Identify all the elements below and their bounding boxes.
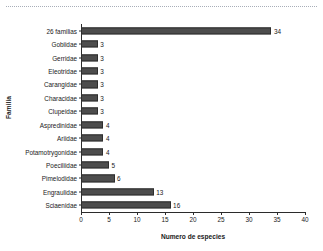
bar-value-label: 13 [156, 188, 163, 195]
species-per-family-bar-chart: Familia 26 familias34Gobiidae3Gerridae3E… [0, 0, 323, 251]
x-axis-title: Numero de especies [81, 233, 305, 240]
bar [81, 41, 98, 48]
bar-row: Eleotridae3 [81, 64, 305, 77]
bar-row: Characidae3 [81, 91, 305, 104]
bar-value-label: 3 [100, 41, 104, 48]
bar-value-label: 3 [100, 67, 104, 74]
bar-value-label: 34 [274, 27, 281, 34]
bar-row: Poeciliidae5 [81, 158, 305, 171]
x-axis-tick [305, 212, 306, 215]
x-axis-tick [193, 212, 194, 215]
bar [81, 188, 154, 195]
bar-row: Potamotrygonidae4 [81, 145, 305, 158]
x-axis-tick-label: 35 [265, 216, 289, 223]
x-axis-tick-label: 20 [181, 216, 205, 223]
category-label: Characidae [44, 94, 77, 101]
x-axis-tick [137, 212, 138, 215]
category-label: Aspredinidae [40, 121, 77, 128]
category-label: Potamotrygonidae [25, 148, 77, 155]
bar-value-label: 6 [117, 175, 121, 182]
bar-row: Gerridae3 [81, 51, 305, 64]
bar [81, 148, 103, 155]
x-axis-tick-label: 25 [209, 216, 233, 223]
bar-row: Carangidae3 [81, 78, 305, 91]
bar-row: 26 familias34 [81, 24, 305, 37]
category-label: Pimelodidae [42, 175, 77, 182]
x-axis-tick-label: 40 [293, 216, 317, 223]
bar [81, 121, 103, 128]
x-axis-tick [249, 212, 250, 215]
bar [81, 67, 98, 74]
x-axis-tick [277, 212, 278, 215]
x-axis-tick-label: 5 [97, 216, 121, 223]
bar-value-label: 5 [112, 161, 116, 168]
category-label: 26 familias [46, 27, 77, 34]
bar [81, 161, 109, 168]
category-label: Gerridae [52, 54, 77, 61]
x-axis-tick [221, 212, 222, 215]
bar-value-label: 3 [100, 54, 104, 61]
bar-row: Sciaenidae16 [81, 199, 305, 212]
bar-row: Pimelodidae6 [81, 172, 305, 185]
bar-row: Gobiidae3 [81, 37, 305, 50]
category-label: Sciaenidae [45, 202, 77, 209]
bar-value-label: 3 [100, 108, 104, 115]
bar-value-label: 4 [106, 148, 110, 155]
bar-value-label: 4 [106, 121, 110, 128]
bar [81, 94, 98, 101]
bar-row: Ariidae4 [81, 131, 305, 144]
bar [81, 135, 103, 142]
bar-row: Aspredinidae4 [81, 118, 305, 131]
bar [81, 108, 98, 115]
bar-row: Engraulidae13 [81, 185, 305, 198]
category-label: Carangidae [44, 81, 77, 88]
bar-row: Clupeidae3 [81, 105, 305, 118]
x-axis-tick [81, 212, 82, 215]
bar-value-label: 3 [100, 81, 104, 88]
y-axis-title: Familia [5, 78, 12, 138]
category-label: Clupeidae [48, 108, 77, 115]
x-axis-tick-label: 0 [69, 216, 93, 223]
x-axis-tick-label: 15 [153, 216, 177, 223]
bar [81, 202, 171, 209]
x-axis-tick [165, 212, 166, 215]
category-label: Gobiidae [51, 41, 77, 48]
x-axis-tick [109, 212, 110, 215]
bar [81, 175, 115, 182]
category-label: Poeciliidae [46, 161, 77, 168]
bar-value-label: 16 [173, 202, 180, 209]
plot-area: 26 familias34Gobiidae3Gerridae3Eleotrida… [81, 24, 305, 212]
x-axis-tick-label: 10 [125, 216, 149, 223]
x-axis-tick-label: 30 [237, 216, 261, 223]
category-label: Engraulidae [43, 188, 77, 195]
category-label: Eleotridae [48, 67, 77, 74]
bar [81, 81, 98, 88]
category-label: Ariidae [57, 135, 77, 142]
bar-value-label: 4 [106, 135, 110, 142]
bar [81, 54, 98, 61]
bar-value-label: 3 [100, 94, 104, 101]
bar [81, 27, 271, 34]
